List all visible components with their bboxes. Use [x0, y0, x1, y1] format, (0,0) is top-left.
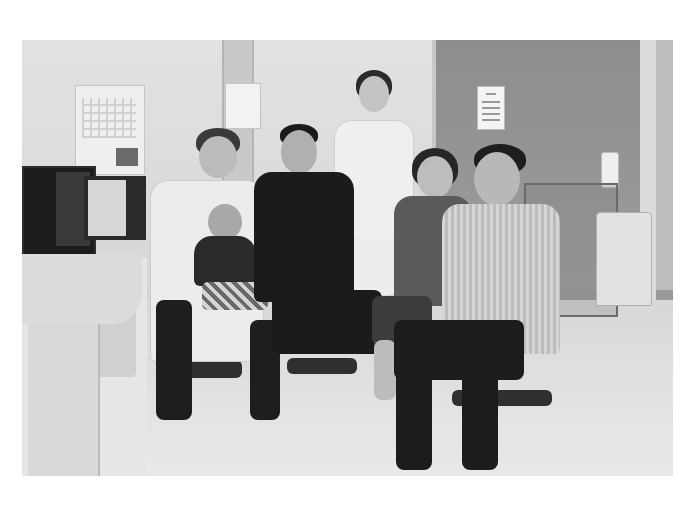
second-monitor [84, 176, 146, 240]
face [208, 204, 242, 240]
face [359, 76, 389, 112]
leg [396, 370, 432, 470]
office-chair [287, 358, 357, 374]
wall-panel [656, 40, 673, 290]
second-monitor-screen [88, 180, 126, 236]
notice-line [486, 93, 496, 95]
wall-paper-sheet [225, 83, 261, 129]
baby-top [194, 236, 256, 286]
face [474, 152, 520, 206]
notice-line [482, 113, 500, 115]
black-shirt [254, 172, 354, 302]
leg [374, 340, 396, 400]
calendar-picture [116, 148, 138, 166]
posted-notice [477, 86, 505, 130]
notice-line [482, 119, 500, 121]
calendar-grid [82, 98, 136, 138]
desk-counter [22, 254, 142, 324]
uniform-pants [352, 235, 397, 295]
black-pants [272, 290, 382, 354]
desk-drawer [28, 324, 100, 476]
notice-line [482, 107, 500, 109]
group-photo [22, 40, 673, 476]
face [199, 136, 237, 178]
waste-bin [596, 212, 652, 306]
leg [156, 300, 192, 420]
face [281, 130, 317, 174]
leg [462, 370, 498, 470]
notice-line [482, 101, 500, 103]
wall-calendar [75, 85, 145, 175]
face [417, 156, 453, 198]
